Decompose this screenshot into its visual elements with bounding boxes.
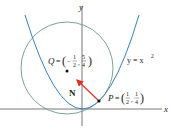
svg-text:1: 1 (135, 91, 138, 97)
svg-text:−: − (67, 58, 71, 66)
svg-text:P: P (107, 93, 114, 103)
svg-text:=: = (115, 94, 120, 103)
svg-text:=: = (56, 57, 61, 66)
point-p-label: P = ( 1 2 , 1 4 ) (107, 91, 144, 105)
svg-text:4: 4 (135, 99, 138, 105)
svg-text:Q: Q (48, 56, 55, 66)
svg-text:1: 1 (73, 54, 76, 60)
svg-text:(: ( (62, 54, 66, 68)
svg-text:): ) (140, 91, 144, 105)
svg-text:(: ( (121, 91, 125, 105)
svg-text:): ) (88, 54, 92, 68)
svg-text:,: , (131, 96, 133, 104)
point-p-dot (97, 99, 100, 102)
svg-text:2: 2 (73, 62, 76, 68)
point-q-label: Q = ( − 1 2 , 5 4 ) (48, 54, 92, 68)
svg-text:4: 4 (82, 62, 85, 68)
osculating-circle-diagram: y x N P = ( 1 2 , 1 4 ) Q = ( (0, 0, 172, 131)
svg-text:2: 2 (126, 99, 129, 105)
curve-label: y = x 2 (127, 53, 154, 65)
normal-vector-arrow (77, 80, 99, 101)
x-axis-label: x (163, 104, 168, 114)
svg-text:1: 1 (126, 91, 129, 97)
svg-text:y = x: y = x (127, 56, 144, 65)
svg-text:,: , (78, 59, 80, 67)
normal-vector-label: N (69, 88, 76, 98)
svg-text:2: 2 (151, 53, 154, 59)
svg-text:5: 5 (82, 54, 85, 60)
y-axis-label: y (78, 2, 83, 12)
point-q-dot (66, 70, 69, 73)
